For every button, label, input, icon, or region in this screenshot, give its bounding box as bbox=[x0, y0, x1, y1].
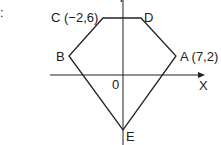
left-marker: : bbox=[0, 5, 4, 20]
point-b-label: B bbox=[56, 49, 65, 64]
point-e-label: E bbox=[126, 129, 135, 144]
origin-label: 0 bbox=[112, 77, 119, 92]
point-a-label: A (7,2) bbox=[180, 49, 218, 64]
y-axis-label: Y bbox=[117, 0, 126, 5]
point-d-label: D bbox=[144, 10, 153, 25]
x-axis-label: X bbox=[199, 78, 208, 93]
point-c-label: C (−2,6) bbox=[51, 10, 98, 25]
diagram-canvas: : Y X 0 C (−2,6) D A (7,2) B E bbox=[0, 0, 221, 145]
